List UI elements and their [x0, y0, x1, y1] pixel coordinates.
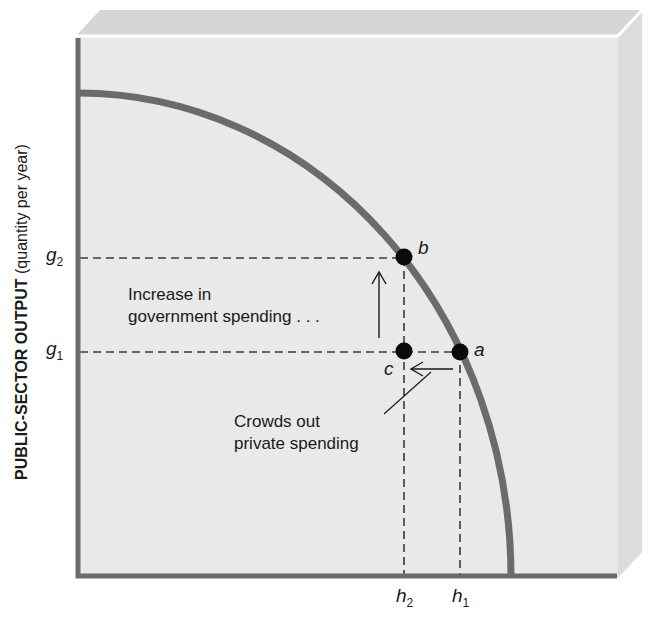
panel-side-face: [618, 10, 642, 578]
annotation-crowd-out: Crowds out private spending: [234, 411, 359, 455]
x-tick-h2: h2: [396, 585, 413, 610]
y-axis-label-bold: PUBLIC-SECTOR OUTPUT: [13, 278, 30, 479]
x-tick-h1: h1: [452, 585, 469, 610]
point-b: [396, 249, 413, 266]
y-axis-label: PUBLIC-SECTOR OUTPUT (quantity per year): [13, 144, 31, 480]
point-b-label: b: [418, 237, 429, 259]
annotation-crowd-out-line1: Crowds out: [234, 411, 359, 433]
annotation-increase: Increase in government spending . . .: [128, 284, 320, 328]
annotation-increase-line2: government spending . . .: [128, 306, 320, 328]
point-c: [396, 343, 413, 360]
point-a: [452, 344, 469, 361]
chart-canvas: [0, 0, 660, 623]
panel-top-face: [76, 10, 642, 36]
point-c-label: c: [384, 358, 394, 380]
y-axis-label-units: (quantity per year): [13, 144, 30, 278]
point-a-label: a: [474, 339, 485, 361]
y-tick-g1: g1: [46, 338, 63, 363]
annotation-increase-line1: Increase in: [128, 284, 320, 306]
annotation-crowd-out-line2: private spending: [234, 433, 359, 455]
y-tick-g2: g2: [46, 244, 63, 269]
